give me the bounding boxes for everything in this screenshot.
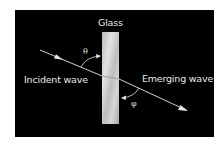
- emerging-arrowhead-icon: [178, 105, 188, 111]
- glass-label: Glass: [98, 17, 123, 28]
- theta-symbol: θ: [83, 47, 88, 56]
- theta-arrowhead-icon: [96, 54, 101, 59]
- emerging-wave-label: Emerging wave: [142, 73, 213, 84]
- incident-ray: [40, 50, 102, 76]
- incident-wave-label: Incident wave: [24, 74, 88, 85]
- phi-symbol: φ: [131, 99, 137, 108]
- phi-arrowhead-icon: [121, 96, 126, 101]
- glass-pane: [102, 32, 119, 124]
- incident-arrowhead-icon: [54, 54, 63, 59]
